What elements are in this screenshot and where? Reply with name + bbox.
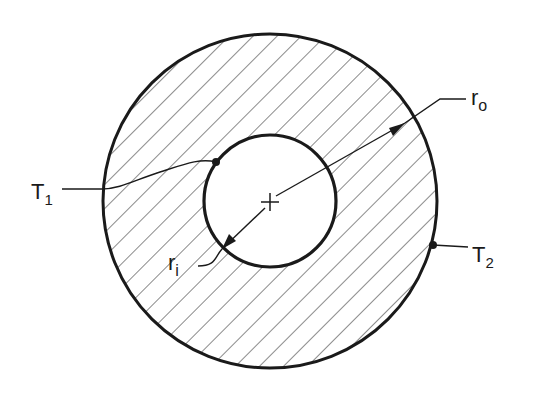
hollow-cylinder-diagram: T1 T2 ro ri — [0, 0, 537, 397]
hatched-wall-region — [0, 0, 537, 397]
